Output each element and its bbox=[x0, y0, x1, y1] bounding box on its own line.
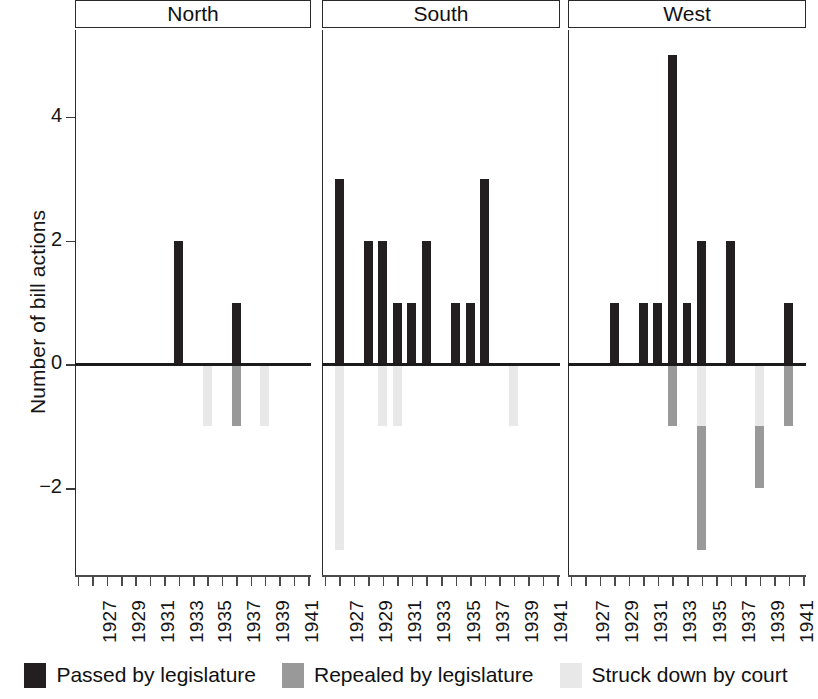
legend-swatch-icon bbox=[560, 663, 582, 688]
x-tick-label: 1941 bbox=[550, 600, 572, 643]
bar-repealed-1939 bbox=[755, 426, 764, 488]
x-tick-label: 1939 bbox=[767, 600, 789, 643]
bar-struck-1939 bbox=[509, 364, 518, 426]
x-tick-mark bbox=[412, 577, 414, 586]
bar-passed-1941 bbox=[784, 303, 793, 365]
x-tick-mark bbox=[485, 577, 487, 586]
x-tick-label: 1941 bbox=[301, 600, 323, 643]
x-tick-mark bbox=[716, 577, 718, 586]
x-tick-mark bbox=[585, 577, 587, 586]
x-tick-mark bbox=[78, 577, 80, 586]
bar-passed-1931 bbox=[639, 303, 648, 365]
x-tick-mark bbox=[658, 577, 660, 586]
bar-passed-1937 bbox=[480, 179, 489, 365]
bar-struck-1927 bbox=[335, 364, 344, 550]
x-tick-label: 1935 bbox=[214, 600, 236, 643]
x-tick-mark bbox=[294, 577, 296, 586]
x-tick-mark bbox=[107, 577, 109, 586]
x-tick-mark bbox=[643, 577, 645, 586]
x-tick-mark bbox=[135, 577, 137, 586]
x-tick-label: 1929 bbox=[128, 600, 150, 643]
y-tick-mark bbox=[66, 488, 75, 490]
bar-passed-1931 bbox=[393, 303, 402, 365]
bar-passed-1934 bbox=[683, 303, 692, 365]
legend-item-0: Passed by legislature bbox=[24, 663, 256, 688]
x-tick-mark bbox=[803, 577, 805, 586]
plot-area bbox=[75, 30, 311, 575]
bar-struck-1935 bbox=[203, 364, 212, 426]
bar-repealed-1933 bbox=[668, 364, 677, 426]
x-tick-mark bbox=[193, 577, 195, 586]
x-tick-label: 1937 bbox=[738, 600, 760, 643]
bar-passed-1930 bbox=[378, 241, 387, 365]
bar-struck-1939 bbox=[755, 364, 764, 426]
x-tick-mark bbox=[251, 577, 253, 586]
x-tick-mark bbox=[279, 577, 281, 586]
x-tick-label: 1939 bbox=[521, 600, 543, 643]
x-tick-mark bbox=[760, 577, 762, 586]
plot-area bbox=[322, 30, 560, 575]
bar-passed-1937 bbox=[232, 303, 241, 365]
x-tick-mark bbox=[571, 577, 573, 586]
x-tick-mark bbox=[557, 577, 559, 586]
facet-panel-south: South19271929193119331935193719391941 bbox=[322, 30, 560, 575]
x-tick-label: 1927 bbox=[346, 600, 368, 643]
x-tick-mark bbox=[308, 577, 310, 586]
panel-title-south: South bbox=[322, 0, 560, 28]
bar-passed-1933 bbox=[174, 241, 183, 365]
bar-passed-1932 bbox=[407, 303, 416, 365]
bar-repealed-1937 bbox=[232, 364, 241, 426]
bar-passed-1933 bbox=[422, 241, 431, 365]
zero-baseline bbox=[322, 363, 560, 366]
x-tick-mark bbox=[745, 577, 747, 586]
x-tick-mark bbox=[179, 577, 181, 586]
zero-baseline bbox=[75, 363, 311, 366]
x-tick-mark bbox=[150, 577, 152, 586]
x-tick-mark bbox=[499, 577, 501, 586]
y-axis-title: Number of bill actions bbox=[26, 182, 50, 442]
x-tick-mark bbox=[543, 577, 545, 586]
bar-passed-1936 bbox=[466, 303, 475, 365]
x-tick-label: 1933 bbox=[186, 600, 208, 643]
legend-label: Passed by legislature bbox=[56, 663, 256, 687]
y-tick-label: 4 bbox=[22, 105, 62, 125]
x-tick-mark bbox=[207, 577, 209, 586]
x-tick-label: 1929 bbox=[375, 600, 397, 643]
bar-passed-1932 bbox=[653, 303, 662, 365]
x-tick-label: 1935 bbox=[709, 600, 731, 643]
facet-panel-north: North19271929193119331935193719391941 bbox=[75, 30, 311, 575]
x-tick-label: 1933 bbox=[679, 600, 701, 643]
y-tick-mark bbox=[66, 241, 75, 243]
x-tick-label: 1941 bbox=[796, 600, 818, 643]
x-tick-mark bbox=[325, 577, 327, 586]
legend-item-2: Struck down by court bbox=[560, 663, 788, 688]
x-tick-mark bbox=[426, 577, 428, 586]
x-tick-label: 1931 bbox=[650, 600, 672, 643]
bar-passed-1937 bbox=[726, 241, 735, 365]
facet-panel-west: West19271929193119331935193719391941 bbox=[568, 30, 806, 575]
x-tick-label: 1937 bbox=[492, 600, 514, 643]
legend-swatch-icon bbox=[24, 663, 46, 688]
bar-struck-1931 bbox=[393, 364, 402, 426]
x-tick-label: 1927 bbox=[99, 600, 121, 643]
bar-passed-1929 bbox=[364, 241, 373, 365]
y-tick-label: −2 bbox=[22, 476, 62, 496]
x-tick-mark bbox=[528, 577, 530, 586]
bar-repealed-1941 bbox=[784, 364, 793, 426]
x-tick-mark bbox=[265, 577, 267, 586]
bar-repealed-1935 bbox=[697, 426, 706, 550]
y-tick-mark bbox=[66, 117, 75, 119]
legend-label: Repealed by legislature bbox=[314, 663, 533, 687]
x-tick-mark bbox=[514, 577, 516, 586]
x-tick-label: 1939 bbox=[272, 600, 294, 643]
x-tick-mark bbox=[92, 577, 94, 586]
y-tick-label: 2 bbox=[22, 229, 62, 249]
zero-baseline bbox=[568, 363, 806, 366]
x-tick-mark bbox=[774, 577, 776, 586]
x-tick-mark bbox=[236, 577, 238, 586]
bar-struck-1935 bbox=[697, 364, 706, 426]
x-tick-label: 1933 bbox=[433, 600, 455, 643]
x-tick-mark bbox=[687, 577, 689, 586]
panel-title-west: West bbox=[568, 0, 806, 28]
legend-item-1: Repealed by legislature bbox=[282, 663, 533, 688]
